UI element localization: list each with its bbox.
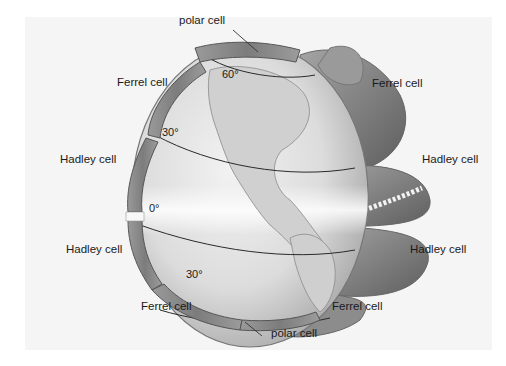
label-ferrel-cell-lower-right: Ferrel cell <box>332 300 382 312</box>
globe-illustration <box>0 0 506 366</box>
label-polar-cell-bottom: polar cell <box>271 327 317 339</box>
label-ferrel-cell-lower-left: Ferrel cell <box>141 300 191 312</box>
label-hadley-cell-upper-right: Hadley cell <box>422 153 478 165</box>
latitude-30-south-label: 30° <box>186 268 203 280</box>
label-polar-cell-top: polar cell <box>179 14 225 26</box>
label-hadley-cell-lower-right: Hadley cell <box>410 243 466 255</box>
latitude-60-label: 60° <box>222 68 239 80</box>
label-ferrel-cell-upper-right: Ferrel cell <box>372 77 422 89</box>
label-ferrel-cell-upper-left: Ferrel cell <box>117 76 167 88</box>
latitude-30-north-label: 30° <box>162 126 179 138</box>
label-hadley-cell-upper-left: Hadley cell <box>60 153 116 165</box>
label-hadley-cell-lower-left: Hadley cell <box>66 243 122 255</box>
latitude-equator-label: 0° <box>149 202 160 214</box>
